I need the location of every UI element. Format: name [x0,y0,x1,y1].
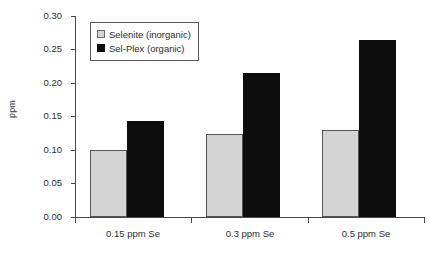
chart-legend: Selenite (inorganic) Sel-Plex (organic) [90,22,199,61]
x-tick-mark [308,218,309,223]
x-tick-mark [191,218,192,223]
x-axis-line [75,217,425,218]
legend-swatch-icon [97,44,105,52]
y-tick-label: 0.05 [32,178,62,188]
y-tick-label: 0.20 [32,78,62,88]
y-axis-tick-labels: 0.30 0.25 0.20 0.15 0.10 0.05 0.00 [30,0,62,257]
y-tick-label: 0.15 [32,111,62,121]
x-axis-category-label: 0.3 ppm Se [195,228,305,239]
bar-selenite-0.5ppm[interactable] [322,130,359,217]
bar-selenite-0.15ppm[interactable] [90,150,127,217]
bar-selplex-0.5ppm[interactable] [359,40,396,217]
y-axis-title: ppm [7,89,17,129]
bar-chart: ppm 0.30 0.25 0.20 0.15 0.10 0.05 0.00 0… [0,0,435,257]
y-tick-label: 0.00 [32,212,62,222]
y-tick-label: 0.10 [32,145,62,155]
bar-selenite-0.3ppm[interactable] [206,134,243,217]
legend-swatch-icon [97,30,105,38]
x-tick-mark [75,218,76,223]
y-tick-label: 0.25 [32,44,62,54]
y-tick-label: 0.30 [32,11,62,21]
bar-selplex-0.3ppm[interactable] [243,73,280,217]
x-tick-mark [424,218,425,223]
legend-item-selplex[interactable]: Sel-Plex (organic) [97,41,191,55]
legend-label: Selenite (inorganic) [109,29,191,40]
x-axis-category-label: 0.15 ppm Se [78,228,188,239]
legend-label: Sel-Plex (organic) [109,43,185,54]
x-axis-category-label: 0.5 ppm Se [311,228,421,239]
bar-selplex-0.15ppm[interactable] [127,121,164,217]
legend-item-selenite[interactable]: Selenite (inorganic) [97,27,191,41]
